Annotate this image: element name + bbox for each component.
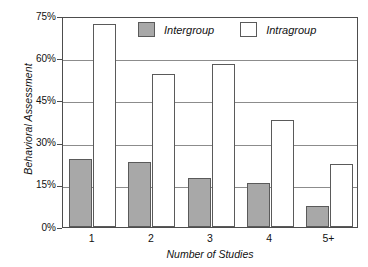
legend-item-intergroup: Intergroup [138,22,214,37]
bar-intergroup-1 [69,159,92,227]
y-axis-tick-label: 15% [0,179,56,190]
x-axis-title: Number of Studies [62,248,358,260]
x-axis-tick-label: 5+ [322,232,334,244]
x-axis-tick-label: 2 [148,232,154,244]
legend-label-intergroup: Intergroup [164,24,214,36]
bar-intragroup-4 [271,120,294,227]
y-axis-tick-label: 75% [0,11,56,22]
legend-swatch-gray-icon [138,22,155,37]
y-axis-tick-label: 45% [0,95,56,106]
bar-intergroup-5plus [306,206,329,227]
y-axis-tick-label: 0% [0,222,56,233]
bar-intragroup-3 [212,64,235,227]
bar-chart-figure: Behavioral Assessment 0%15%30%45%60%75% … [0,0,368,267]
bar-intergroup-3 [188,178,211,227]
legend-item-intragroup: Intragroup [240,22,316,37]
bar-group [63,18,357,227]
x-axis-tick-label: 4 [266,232,272,244]
bar-intergroup-2 [128,162,151,227]
y-axis-tick-label: 30% [0,137,56,148]
bar-intragroup-5plus [330,164,353,227]
x-axis-tick-label: 3 [207,232,213,244]
legend-label-intragroup: Intragroup [266,24,316,36]
y-axis-tick-label: 60% [0,53,56,64]
x-axis-tick-label: 1 [89,232,95,244]
bar-intergroup-4 [247,183,270,227]
chart-legend: Intergroup Intragroup [138,22,316,37]
legend-swatch-white-icon [240,22,257,37]
bar-intragroup-1 [93,24,116,227]
bar-intragroup-2 [152,74,175,227]
y-axis-tick-mark [57,228,62,229]
plot-area [62,17,358,228]
